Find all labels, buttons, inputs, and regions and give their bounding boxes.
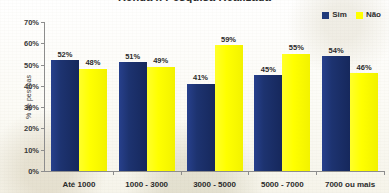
bar-sim[interactable] (254, 75, 282, 171)
chart-title: Renda x Pesquisa Realizada (0, 0, 389, 3)
bar-nao[interactable] (282, 54, 310, 171)
x-axis-line (44, 171, 384, 172)
x-tick (113, 171, 114, 175)
y-tick (41, 150, 45, 151)
y-tick (41, 86, 45, 87)
legend-label-nao: Não (366, 11, 381, 19)
bar-nao[interactable] (79, 69, 107, 171)
y-tick (41, 43, 45, 44)
y-tick (41, 128, 45, 129)
bar-nao[interactable] (350, 73, 378, 171)
bar-value-label: 48% (85, 59, 100, 67)
x-axis-category-label: 7000 ou mais (325, 180, 375, 189)
bar-group: 41%59%3000 - 5000 (187, 22, 243, 171)
y-tick (41, 22, 45, 23)
bar-value-label: 41% (193, 74, 208, 82)
x-tick (181, 171, 182, 175)
legend-item-sim[interactable]: Sim (322, 11, 347, 19)
bar-nao[interactable] (147, 67, 175, 171)
x-axis-category-label: 5000 - 7000 (261, 180, 304, 189)
y-tick-label: 50% (24, 60, 39, 69)
bar-group: 51%49%1000 - 3000 (119, 22, 175, 171)
x-tick (384, 171, 385, 175)
y-tick-label: 0% (28, 167, 39, 176)
bar-value-label: 54% (329, 47, 344, 55)
bar-sim[interactable] (187, 84, 215, 171)
bar-sim[interactable] (119, 62, 147, 171)
plot-area: % de pessoas 0%10%20%30%40%50%60%70% 52%… (45, 22, 384, 171)
bar-group: 54%46%7000 ou mais (322, 22, 378, 171)
chart-legend: Sim Não (322, 11, 381, 19)
legend-label-sim: Sim (332, 11, 347, 19)
y-tick-label: 20% (24, 124, 39, 133)
y-tick-label: 10% (24, 145, 39, 154)
bar-sim[interactable] (51, 60, 79, 171)
bar-sim[interactable] (322, 56, 350, 171)
y-tick-label: 70% (24, 18, 39, 27)
y-tick-label: 60% (24, 39, 39, 48)
legend-swatch-sim-icon (322, 12, 329, 19)
x-axis-category-label: 3000 - 5000 (193, 180, 236, 189)
legend-swatch-nao-icon (356, 12, 363, 19)
legend-item-nao[interactable]: Não (356, 11, 381, 19)
chart-page: Renda x Pesquisa Realizada Sim Não % de … (0, 0, 389, 193)
x-tick (316, 171, 317, 175)
y-tick-label: 30% (24, 103, 39, 112)
bar-value-label: 45% (261, 66, 276, 74)
y-tick (41, 107, 45, 108)
x-axis-category-label: Até 1000 (62, 180, 95, 189)
bar-value-label: 49% (153, 57, 168, 65)
y-tick-label: 40% (24, 81, 39, 90)
bar-nao[interactable] (215, 45, 243, 171)
x-axis-category-label: 1000 - 3000 (125, 180, 168, 189)
bar-value-label: 55% (289, 44, 304, 52)
bar-group: 45%55%5000 - 7000 (254, 22, 310, 171)
bar-value-label: 51% (125, 53, 140, 61)
bar-value-label: 59% (221, 36, 236, 44)
bar-value-label: 46% (357, 64, 372, 72)
bar-group: 52%48%Até 1000 (51, 22, 107, 171)
y-tick (41, 65, 45, 66)
y-tick (41, 171, 45, 172)
bar-value-label: 52% (57, 51, 72, 59)
x-tick (248, 171, 249, 175)
